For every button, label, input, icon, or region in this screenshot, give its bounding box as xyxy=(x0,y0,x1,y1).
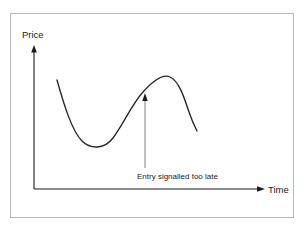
y-axis-label: Price xyxy=(22,30,44,40)
annotation-arrowhead xyxy=(142,93,147,101)
x-axis-label: Time xyxy=(268,185,289,195)
price-curve xyxy=(57,76,197,147)
annotation-label: Entry signalled too late xyxy=(137,173,218,181)
plot-canvas xyxy=(0,0,307,231)
x-axis-arrowhead xyxy=(257,186,265,192)
figure-root: Price Time Entry signalled too late xyxy=(0,0,307,231)
y-axis-arrowhead xyxy=(31,45,37,53)
